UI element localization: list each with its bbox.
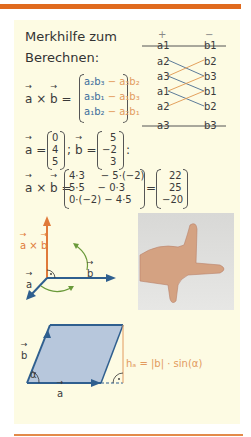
calc-equals: =: [146, 181, 156, 195]
result-right-bracket: [183, 169, 188, 209]
scheme-right-2: b2: [204, 56, 217, 68]
equals-sign: =: [62, 92, 72, 106]
title-line-2: Berechnen:: [25, 49, 99, 67]
result-left-bracket: [156, 169, 161, 209]
label-vector-a-2: a: [57, 388, 63, 400]
scheme-right-3: b3: [204, 71, 217, 83]
title-line-1: Merkhilfe zum: [25, 28, 117, 46]
formula-row-1: a₂b₃ − a₃b₂: [84, 76, 140, 88]
result-2: 25: [169, 182, 182, 194]
scheme-left-3: a3: [157, 71, 170, 83]
a-value-1: 0: [52, 132, 58, 144]
calc-row-3: 0·(−2) − 4·5: [69, 194, 132, 206]
example-a-label: a =: [25, 143, 46, 157]
b-value-3: 3: [110, 156, 116, 168]
result-1: 22: [169, 170, 182, 182]
scheme-right-5: b2: [204, 101, 217, 113]
cross-scheme-diagram: [140, 38, 235, 133]
formula-row-2: a₃b₁ − a₁b₃: [84, 91, 140, 103]
scheme-left-2: a2: [157, 56, 170, 68]
example-b-label: b =: [75, 143, 97, 157]
result-3: −20: [162, 194, 183, 206]
formula-row-3: a₁b₂ − a₂b₁: [84, 106, 140, 118]
scheme-right-6: b3: [204, 120, 217, 132]
separator: ;: [67, 143, 71, 157]
right-hand-rule-photo: [138, 213, 234, 310]
a-value-2: 4: [52, 144, 58, 156]
scheme-left-4: a1: [157, 86, 170, 98]
scheme-left-6: a3: [157, 120, 170, 132]
b-right-bracket: [119, 131, 124, 170]
height-formula: hₐ = |b| · sin(α): [126, 358, 202, 370]
colon: :: [126, 143, 130, 157]
top-accent-bar: [0, 4, 241, 9]
vector-a: a: [25, 92, 32, 106]
a-value-3: 5: [52, 156, 58, 168]
label-alpha: α: [30, 369, 37, 381]
label-cross-product: a × b: [20, 240, 47, 252]
scheme-left-1: a1: [157, 40, 170, 52]
b-value-2: −2: [102, 144, 117, 156]
scheme-left-5: a2: [157, 101, 170, 113]
label-vector-b-2: b: [21, 350, 27, 362]
label-vector-b-1: b: [87, 268, 93, 280]
bottom-accent-bar: [14, 434, 243, 436]
hand-illustration: [138, 213, 234, 310]
scheme-right-1: b1: [204, 40, 217, 52]
b-value-1: 5: [110, 132, 116, 144]
calc-row-2: 5·5 − 0·3: [69, 182, 125, 194]
scheme-right-4: b1: [204, 86, 217, 98]
cross-product-vector-diagram: [15, 210, 135, 310]
label-vector-a-1: a: [26, 279, 32, 291]
a-right-bracket: [60, 131, 65, 170]
vector-b: b: [50, 92, 58, 106]
cross-product-lhs: a × b =: [25, 92, 72, 106]
calc-row-1: 4·3 − 5·(−2): [69, 170, 144, 182]
times-sign: ×: [36, 92, 46, 106]
